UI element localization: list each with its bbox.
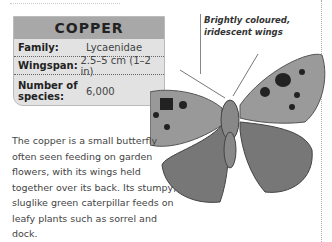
fact-value: Lycaenidae [86,42,142,53]
fact-value: 6,000 [86,86,115,97]
top-dotted-rule [10,3,120,4]
fact-box-title: COPPER [14,17,164,39]
wing-annotation: Brightly coloured, iridescent wings [204,14,290,38]
fact-row-wingspan: Wingspan: 2.5–5 cm (1–2 in) [14,57,164,75]
description-paragraph: The copper is a small butterfly often se… [12,133,182,242]
annotation-line-2: iridescent wings [204,26,290,38]
annotation-line-1: Brightly coloured, [204,14,290,26]
fact-key: Number of species: [18,80,86,102]
fact-value: 2.5–5 cm (1–2 in) [80,55,160,77]
fact-key: Family: [18,42,86,53]
fact-key: Wingspan: [18,60,80,71]
fact-row-species: Number of species: 6,000 [14,75,164,107]
fact-box: COPPER Family: Lycaenidae Wingspan: 2.5–… [13,16,165,106]
